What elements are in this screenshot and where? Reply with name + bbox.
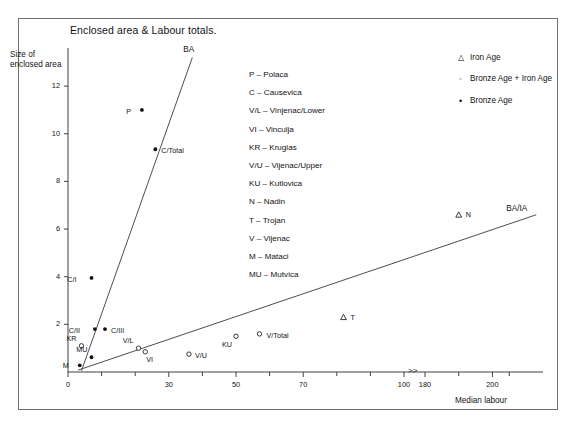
abbreviation-row: MU – Mutvica	[249, 270, 419, 288]
data-point-label: V/U	[195, 351, 207, 360]
data-point-label: C/I	[67, 275, 76, 284]
abbreviation-row: T – Trojan	[249, 216, 419, 234]
legend-item-bronze-age: •Bronze Age	[455, 96, 560, 106]
abbreviation-row: V/L – Vinjenac/Lower	[249, 106, 419, 124]
trend-line-label: BA/IA	[506, 204, 527, 213]
y-tick-label: 4	[47, 272, 60, 281]
x-tick-label: 50	[226, 380, 246, 389]
legend-item-label: Bronze Age + Iron Age	[470, 74, 552, 83]
data-point-label: C/Total	[161, 146, 183, 155]
marker-legend: △Iron Age◦Bronze Age + Iron Age•Bronze A…	[455, 53, 560, 117]
x-tick-label: 180	[415, 380, 435, 389]
legend-dot-marker-icon: •	[455, 96, 466, 106]
data-point-label: MU	[76, 345, 87, 354]
abbreviation-row: P – Polaca	[249, 70, 419, 88]
y-tick-label: 8	[47, 176, 60, 185]
legend-tri-marker-icon: △	[455, 53, 466, 63]
data-point-label: VI	[146, 355, 153, 364]
abbreviation-row: M – Mataci	[249, 252, 419, 270]
x-tick-label: 30	[159, 380, 179, 389]
legend-item-iron-age: △Iron Age	[455, 53, 560, 63]
x-tick-label: 0	[58, 380, 78, 389]
data-point-label: V/Total	[267, 331, 289, 340]
data-point-label: KR	[66, 334, 76, 343]
abbreviation-row: KU – Kutlovica	[249, 179, 419, 197]
chart-title: Enclosed area & Labour totals.	[70, 24, 217, 36]
abbreviation-key: P – PolacaC – CausevicaV/L – Vinjenac/Lo…	[249, 70, 419, 288]
data-point-label: C/III	[111, 326, 124, 335]
data-point-label: N	[466, 210, 471, 219]
abbreviation-row: KR – Kruglas	[249, 143, 419, 161]
y-tick-label: 12	[47, 81, 60, 90]
legend-circ-marker-icon: ◦	[455, 74, 466, 84]
data-point-label: P	[126, 107, 131, 116]
abbreviation-row: V – Vijenac	[249, 234, 419, 252]
y-tick-label: 6	[47, 224, 60, 233]
axis-break-symbol: >>	[408, 366, 417, 375]
y-tick-label: 10	[47, 129, 60, 138]
abbreviation-row: C – Causevica	[249, 88, 419, 106]
legend-item-label: Iron Age	[470, 53, 501, 62]
y-tick-label: 2	[47, 319, 60, 328]
data-point-label: V/L	[123, 336, 134, 345]
data-point-label: KU	[222, 340, 232, 349]
chart-screenshot: Enclosed area & Labour totals. Size of e…	[0, 0, 573, 426]
x-tick-label: 70	[293, 380, 313, 389]
legend-item-label: Bronze Age	[470, 96, 512, 105]
abbreviation-row: VI – Vinculja	[249, 125, 419, 143]
trend-line-label: BA	[183, 45, 194, 54]
x-tick-label: 100	[394, 380, 414, 389]
data-point-label: T	[351, 313, 355, 322]
abbreviation-row: V/U – Vijenac/Upper	[249, 161, 419, 179]
legend-item-bronze-age-iron-age: ◦Bronze Age + Iron Age	[455, 74, 560, 84]
x-axis-label: Median labour	[455, 396, 507, 405]
x-tick-label: 200	[482, 380, 502, 389]
abbreviation-row: N – Nadin	[249, 197, 419, 215]
data-point-label: M	[63, 361, 69, 370]
y-axis-label: Size of enclosed area	[10, 50, 66, 69]
